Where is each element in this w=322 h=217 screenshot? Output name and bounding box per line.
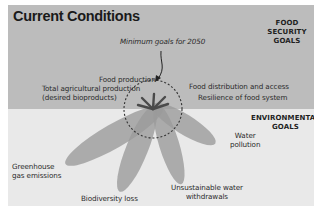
label-resilience: Resilience of food system xyxy=(198,93,287,102)
annotation-minimum-goals: Minimum goals for 2050 xyxy=(120,37,205,46)
diagram-panel: Current Conditions FOOD SECURITY GOALS M… xyxy=(8,5,314,206)
label-biodiversity-loss: Biodiversity loss xyxy=(81,194,138,203)
label-food-production: Food production xyxy=(99,75,156,84)
environmental-goals-heading: ENVIRONMENTAL GOALS xyxy=(251,114,314,132)
label-water-pollution: Water pollution xyxy=(230,131,260,149)
label-water-withdrawals: Unsustainable water withdrawals xyxy=(171,183,243,201)
label-food-distribution: Food distribution and access xyxy=(189,82,289,91)
label-ghg-emissions: Greenhouse gas emissions xyxy=(12,162,61,180)
label-total-ag-production: Total agricultural production (desired b… xyxy=(42,84,140,102)
page-title: Current Conditions xyxy=(13,8,140,24)
food-security-sprouts xyxy=(138,94,168,109)
food-security-goals-heading: FOOD SECURITY GOALS xyxy=(260,19,314,46)
annotation-arrow xyxy=(158,51,162,79)
